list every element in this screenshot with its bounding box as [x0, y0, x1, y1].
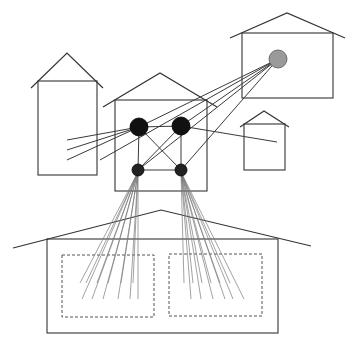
hub-bottom-right-node-icon [175, 164, 187, 176]
house-top-right [230, 13, 345, 98]
network-link [138, 59, 278, 170]
network-link [139, 59, 278, 127]
links-layer [67, 59, 278, 170]
diagram-canvas [0, 0, 353, 342]
fan-left [80, 172, 138, 299]
house-top-right-body [242, 33, 333, 98]
house-left-tall [31, 53, 103, 175]
fan-right [181, 172, 244, 299]
hub-bottom-left-node-icon [132, 164, 144, 176]
house-center-hub [103, 73, 217, 191]
fan-line [82, 172, 138, 299]
network-link [181, 59, 278, 126]
house-bottom-large [13, 210, 311, 333]
house-small-right [240, 111, 289, 170]
network-link [181, 59, 278, 170]
hub-top-left-node-icon [130, 118, 148, 136]
house-small-right-body [244, 124, 285, 170]
house-top-right-roof [230, 13, 345, 38]
network-link [100, 59, 278, 160]
house-bottom-large-body [47, 239, 278, 333]
rooms-layer [62, 254, 262, 317]
fan-line [181, 172, 244, 299]
room-left [62, 255, 154, 317]
house-center-hub-roof [103, 73, 217, 107]
house-left-tall-roof [31, 53, 103, 88]
room-right [169, 254, 262, 316]
hub-top-right-node-icon [172, 117, 190, 135]
house-center-hub-body [115, 100, 207, 191]
house-bottom-large-roof [13, 210, 311, 248]
network-link [181, 126, 277, 142]
network-house-diagram: Houses connected through a network hub [0, 0, 353, 342]
house-left-tall-body [38, 81, 97, 175]
remote-gray-node-icon [269, 50, 287, 68]
house-small-right-roof [240, 111, 289, 127]
